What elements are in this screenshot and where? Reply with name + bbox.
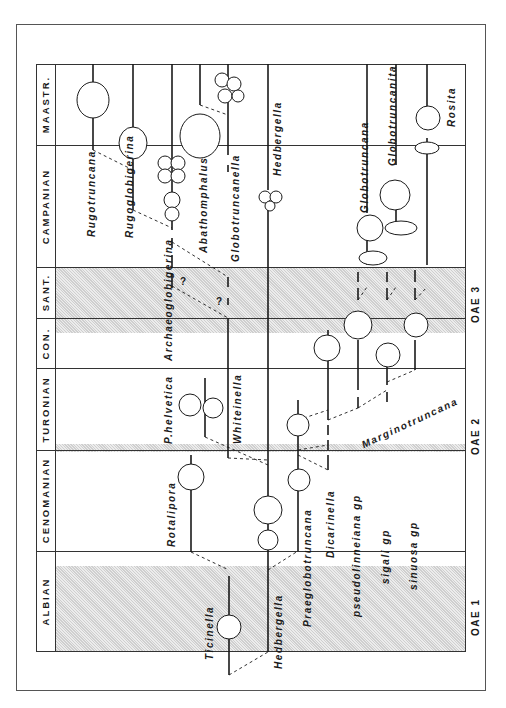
taxon-label-globotruncana: Globotruncana	[359, 121, 370, 213]
taxon-label-hedbergella-lower: Hedbergella	[273, 594, 284, 669]
taxon-label-dicarinella: Dicarinella	[325, 490, 336, 558]
taxon-label-globotruncanita: Globotruncanita	[387, 65, 398, 166]
uncertain-mark: ?	[216, 296, 222, 307]
taxon-label-ticinella: Ticinella	[204, 606, 215, 660]
event-label-oae1: OAE 1	[470, 598, 481, 636]
uncertain-mark: ?	[180, 276, 186, 287]
event-label-oae2: OAE 2	[470, 417, 481, 455]
taxon-label-rotalipora: Rotalipora	[166, 482, 177, 547]
event-label-oae3: OAE 3	[470, 285, 481, 323]
taxon-label-sinuosa-gp: sinuosa gp	[408, 521, 419, 590]
taxon-label-archaeoglobigerina: Archaeoglobigerina	[163, 238, 174, 361]
taxon-label-abathomphalus: Abathomphalus	[198, 157, 209, 253]
taxon-label-rugotruncana: Rugotruncana	[86, 150, 97, 237]
taxon-label-hedbergella-upper: Hedbergella	[272, 101, 283, 176]
taxon-label-p-helvetica: P.helvetica	[163, 375, 174, 444]
taxon-label-globotruncanella: Globotruncanella	[230, 154, 241, 262]
taxon-label-whiteinella: Whiteinella	[232, 374, 243, 444]
taxon-label-pseudolinneiana-gp: pseudolinneiana gp	[351, 494, 362, 617]
range-lines-svg	[0, 0, 506, 708]
taxon-label-sigali-gp: sigali gp	[380, 529, 391, 584]
taxon-label-praeglobotruncana: Praeglobotruncana	[302, 509, 313, 627]
taxon-label-rosita: Rosita	[446, 87, 457, 127]
taxon-label-rugoglobigerina: Rugoglobigerina	[124, 135, 135, 238]
